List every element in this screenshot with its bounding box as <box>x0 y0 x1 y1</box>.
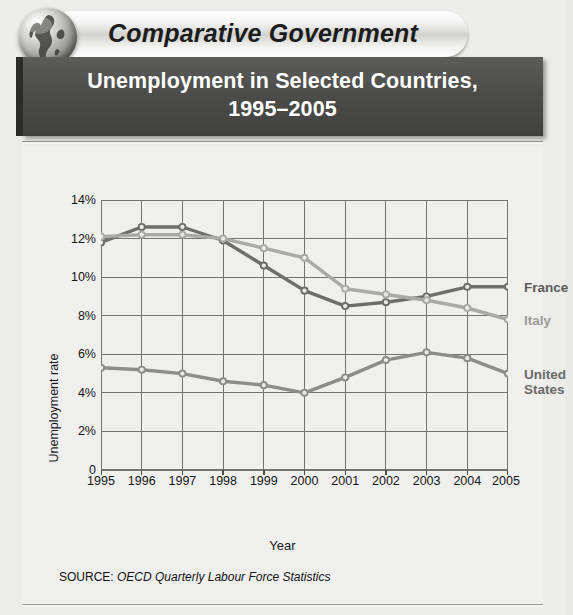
y-tick: 8% <box>78 309 96 323</box>
y-tick: 14% <box>71 193 96 207</box>
x-tick: 2001 <box>331 474 359 488</box>
header-divider <box>22 141 543 144</box>
banner-label: Comparative Government <box>108 19 508 51</box>
y-tick: 12% <box>71 232 96 246</box>
source-citation: OECD Quarterly Labour Force Statistics <box>117 570 330 584</box>
x-tick: 2000 <box>291 474 319 488</box>
source-prefix: SOURCE: <box>59 570 114 584</box>
chart-legend: France Italy United States <box>514 200 573 470</box>
x-tick: 1996 <box>128 474 156 488</box>
chart-title-bar: Unemployment in Selected Countries, 1995… <box>22 57 543 136</box>
chart-title-line2: 1995–2005 <box>22 95 543 123</box>
chart-title: Unemployment in Selected Countries, 1995… <box>22 67 543 123</box>
legend-item-united-states: United States <box>524 367 566 397</box>
x-tick: 2002 <box>372 474 400 488</box>
y-tick: 6% <box>78 347 96 361</box>
x-tick: 1995 <box>87 474 115 488</box>
x-axis-ticks: 1995 1996 1997 1998 1999 2000 2001 2002 … <box>22 474 543 494</box>
legend-item-italy: Italy <box>524 313 551 328</box>
chart-figure: Unemployment rate 14% 12% 10% 8% 6% 4% 2… <box>22 146 543 604</box>
y-axis-ticks: 14% 12% 10% 8% 6% 4% 2% 0 <box>44 200 96 470</box>
x-tick: 1998 <box>209 474 237 488</box>
plot-area <box>101 200 508 470</box>
legend-label-united: United <box>524 367 566 382</box>
chart-title-line1: Unemployment in Selected Countries, <box>22 67 543 95</box>
x-tick: 1997 <box>168 474 196 488</box>
y-tick: 2% <box>78 424 96 438</box>
x-tick: 2003 <box>413 474 441 488</box>
x-tick: 2005 <box>492 474 520 488</box>
x-axis-title: Year <box>22 538 543 553</box>
legend-label-states: States <box>524 382 565 397</box>
source-note: SOURCE: OECD Quarterly Labour Force Stat… <box>59 570 330 584</box>
x-tick: 1999 <box>250 474 278 488</box>
chart-canvas <box>101 200 508 476</box>
x-tick: 2004 <box>453 474 481 488</box>
footer-divider <box>22 604 543 607</box>
y-tick: 4% <box>78 386 96 400</box>
y-tick: 10% <box>71 270 96 284</box>
legend-item-france: France <box>524 280 568 295</box>
